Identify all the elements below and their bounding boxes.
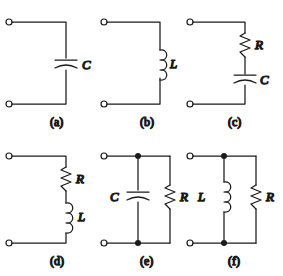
terminal-d-top [6, 153, 12, 159]
inductor-symbol-d [66, 203, 73, 233]
wire-d-bottom [12, 233, 66, 243]
caption-f: (f) [228, 254, 240, 268]
wire-c-bottom [193, 85, 245, 104]
resistor-symbol-f [251, 185, 261, 209]
wire-c-top [193, 22, 245, 33]
terminal-b-bottom [101, 101, 107, 107]
wire-b-bottom [107, 78, 160, 104]
wire-d-top [12, 156, 66, 167]
label-d-inductor: L [77, 209, 85, 224]
panel-a [6, 19, 77, 107]
resistor-symbol-d [61, 167, 71, 191]
terminal-a-bottom [6, 101, 12, 107]
wire-a-bottom [12, 70, 66, 104]
terminal-a-top [6, 19, 12, 25]
terminal-e-bottom [101, 240, 107, 246]
resistor-symbol-c [240, 33, 250, 57]
label-e-capacitor: C [110, 189, 119, 204]
terminal-e-top [101, 153, 107, 159]
inductor-symbol-b [160, 50, 167, 80]
caption-c: (c) [228, 115, 241, 129]
terminal-c-top [187, 19, 193, 25]
label-d-resistor: R [75, 171, 84, 186]
resistor-symbol-e [165, 185, 175, 209]
label-c-resistor: R [254, 37, 263, 52]
label-a-capacitor: C [82, 57, 91, 72]
caption-e: (e) [140, 254, 153, 268]
label-e-resistor: R [179, 189, 188, 204]
capacitor-symbol-e [127, 192, 149, 200]
panel-d [6, 153, 73, 246]
label-b-inductor: L [169, 56, 177, 71]
label-f-resistor: R [265, 189, 274, 204]
terminal-f-top [187, 153, 193, 159]
junction-dot-e-bottom [135, 240, 141, 246]
circuit-figure: C (a) L (b) R C (c) [0, 0, 283, 276]
caption-a: (a) [50, 115, 63, 129]
panel-c [187, 19, 256, 107]
wire-a-top [12, 22, 66, 58]
terminal-c-bottom [187, 101, 193, 107]
label-f-inductor: L [197, 189, 205, 204]
label-c-capacitor: C [260, 72, 269, 87]
capacitor-symbol-a [55, 60, 77, 68]
terminal-b-top [101, 19, 107, 25]
junction-dot-e-top [135, 153, 141, 159]
junction-dot-f-top [221, 153, 227, 159]
junction-dot-f-bottom [221, 240, 227, 246]
panel-b [101, 19, 167, 107]
capacitor-symbol-c [234, 75, 256, 83]
caption-d: (d) [50, 254, 64, 268]
wire-b-top [107, 22, 160, 50]
inductor-symbol-f [224, 182, 231, 212]
caption-b: (b) [140, 115, 154, 129]
circuit-diagram-svg: C (a) L (b) R C (c) [0, 0, 283, 276]
terminal-f-bottom [187, 240, 193, 246]
terminal-d-bottom [6, 240, 12, 246]
